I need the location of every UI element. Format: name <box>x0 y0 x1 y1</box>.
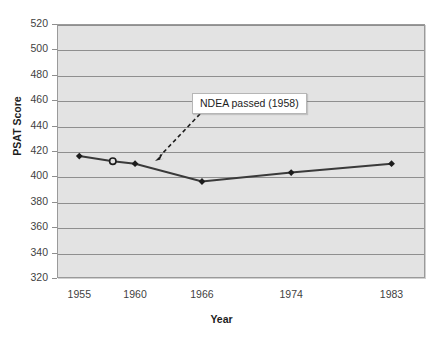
x-axis-title: Year <box>0 313 443 325</box>
y-axis-title: PSAT Score <box>11 81 23 171</box>
plot-area <box>57 24 425 278</box>
y-axis-tick-label: 500 <box>14 42 48 54</box>
x-axis-tick-label: 1983 <box>362 288 422 300</box>
y-axis-tick-mark <box>52 151 57 152</box>
x-axis-tick-label: 1960 <box>105 288 165 300</box>
y-axis-tick-mark <box>52 75 57 76</box>
gridline <box>58 76 424 77</box>
psat-score-line-chart: 320340360380400420440460480500520 PSAT S… <box>0 0 443 337</box>
gridline <box>58 203 424 204</box>
gridline <box>58 127 424 128</box>
y-axis-tick-mark <box>52 24 57 25</box>
x-axis-tick-label: 1974 <box>261 288 321 300</box>
gridline <box>58 177 424 178</box>
y-axis-tick-mark <box>52 49 57 50</box>
y-axis-tick-mark <box>52 253 57 254</box>
gridline <box>58 25 424 26</box>
y-axis-tick-label: 360 <box>14 220 48 232</box>
gridline <box>58 254 424 255</box>
y-axis-tick-label: 480 <box>14 68 48 80</box>
x-axis-tick-label: 1955 <box>49 288 109 300</box>
y-axis-tick-mark <box>52 202 57 203</box>
y-axis-tick-label: 320 <box>14 271 48 283</box>
y-axis-tick-mark <box>52 227 57 228</box>
y-axis-tick-label: 380 <box>14 195 48 207</box>
y-axis-tick-mark <box>52 176 57 177</box>
gridline <box>58 152 424 153</box>
annotation-callout-ndea: NDEA passed (1958) <box>192 93 307 114</box>
y-axis-tick-label: 400 <box>14 169 48 181</box>
x-axis-tick-label: 1966 <box>172 288 232 300</box>
y-axis-tick-mark <box>52 278 57 279</box>
y-axis-tick-label: 340 <box>14 246 48 258</box>
y-axis-tick-mark <box>52 100 57 101</box>
y-axis-tick-mark <box>52 126 57 127</box>
gridline <box>58 228 424 229</box>
y-axis-tick-label: 520 <box>14 17 48 29</box>
gridline <box>58 50 424 51</box>
